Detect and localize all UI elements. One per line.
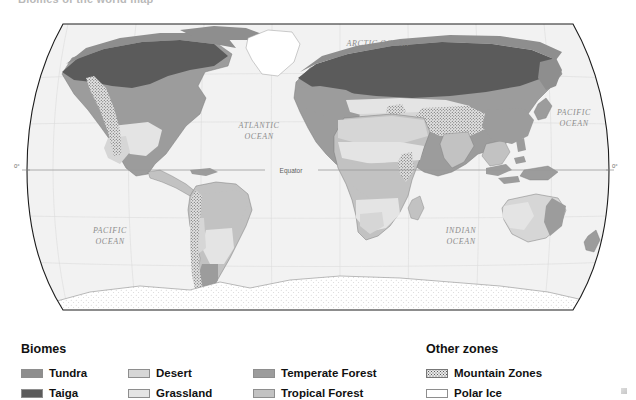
legend-label-taiga: Taiga [49,387,78,399]
legend-other-zones-heading: Other zones [426,342,498,356]
legend-item-tundra: Tundra [21,367,87,379]
legend-label-temperate-forest: Temperate Forest [281,367,377,379]
map-svg: 0° 0° Equator ARCTIC OCEAN ATLANTIC OCEA… [0,14,636,324]
equator-tick-right: 0° [612,163,618,169]
equator-tick-left: 0° [14,163,20,169]
swatch-tropical-forest [253,389,275,398]
legend-item-taiga: Taiga [21,387,78,399]
region-sahara [338,116,428,144]
legend-item-polar-ice: Polar Ice [426,387,502,399]
top-caption: Biomes of the world map [18,0,153,5]
corner-artifact [621,388,627,394]
atlantic-ocean-label: OCEAN [244,132,273,141]
legend-label-mountain-zones: Mountain Zones [454,367,542,379]
pacific-ocean-east-label: PACIFIC [556,108,591,117]
pacific-ocean-west-label: PACIFIC [92,226,127,235]
legend-item-temperate-forest: Temperate Forest [253,367,377,379]
equator-label: Equator [280,167,304,175]
arctic-ocean-label: ARCTIC OCEAN [346,39,410,48]
swatch-taiga [21,389,43,398]
indian-ocean-label: INDIAN [445,226,476,235]
world-biome-map: 0° 0° Equator ARCTIC OCEAN ATLANTIC OCEA… [0,14,636,324]
biome-map-page: Biomes of the world map [0,0,636,400]
swatch-grassland [128,389,150,398]
pacific-ocean-west-label: OCEAN [95,237,124,246]
map-legend: Biomes Other zones Tundra Taiga Desert G… [0,335,636,400]
legend-item-desert: Desert [128,367,192,379]
legend-item-grassland: Grassland [128,387,212,399]
legend-label-tundra: Tundra [49,367,87,379]
legend-item-mountain-zones: Mountain Zones [426,367,542,379]
atlantic-ocean-label: ATLANTIC [238,121,280,130]
swatch-mountain-zones [426,369,448,378]
swatch-tundra [21,369,43,378]
legend-item-tropical-forest: Tropical Forest [253,387,363,399]
indian-ocean-label: OCEAN [446,237,475,246]
legend-label-desert: Desert [156,367,192,379]
legend-label-grassland: Grassland [156,387,212,399]
legend-label-tropical-forest: Tropical Forest [281,387,363,399]
swatch-desert [128,369,150,378]
legend-label-polar-ice: Polar Ice [454,387,502,399]
map-canvas [0,14,636,324]
swatch-temperate-forest [253,369,275,378]
pacific-ocean-east-label: OCEAN [559,119,588,128]
legend-biomes-heading: Biomes [21,342,66,356]
swatch-polar-ice [426,389,448,398]
